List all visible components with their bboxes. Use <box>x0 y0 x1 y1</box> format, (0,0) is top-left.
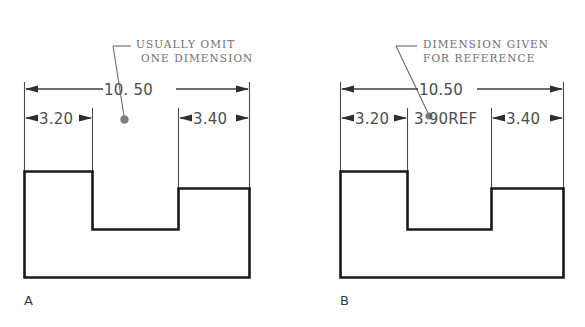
panel-a-part-outline <box>25 172 250 278</box>
panel-a-left-dim-text: 3.20 <box>39 110 73 128</box>
panel-a-overall-dim-text: 10. 50 <box>104 81 153 99</box>
panel-b-note-line-1: DIMENSION GIVEN <box>423 38 549 50</box>
panel-b-middle-dim-text: 3.90REF <box>414 110 477 128</box>
panel-b-left-arrow-right <box>394 115 407 122</box>
drawing-page: USUALLY OMIT ONE DIMENSION 10. 50 <box>0 0 585 327</box>
panel-b-right-arrow-right <box>550 115 563 122</box>
panel-a-figure-label: A <box>24 293 33 308</box>
panel-b-note-line-2: FOR REFERENCE <box>423 52 535 64</box>
panel-b-overall-dimension: 10.50 <box>341 81 563 99</box>
panel-b-overall-dim-text: 10.50 <box>419 81 463 99</box>
panel-a-overall-arrow-right <box>236 86 249 93</box>
panel-b-left-arrow-left <box>341 115 354 122</box>
panel-a-overall-arrow-left <box>25 86 38 93</box>
panel-a-right-dim-text: 3.40 <box>193 110 227 128</box>
panel-a-right-dimension: 3.40 <box>179 110 249 128</box>
panel-a-right-arrow-left <box>179 115 192 122</box>
panel-a-leader-dot <box>120 115 128 123</box>
panel-a-left-dimension: 3.20 <box>25 110 92 128</box>
panel-a-left-arrow-right <box>79 115 92 122</box>
panel-b-middle-dimension: 3.90REF <box>414 110 477 128</box>
panel-a-left-arrow-left <box>25 115 38 122</box>
panel-b: DIMENSION GIVEN FOR REFERENCE 10.50 <box>340 38 564 308</box>
panel-b-right-arrow-left <box>492 115 505 122</box>
panel-a-right-arrow-right <box>236 115 249 122</box>
technical-drawing-canvas: USUALLY OMIT ONE DIMENSION 10. 50 <box>0 0 585 327</box>
panel-b-overall-arrow-right <box>550 86 563 93</box>
panel-a-overall-dimension: 10. 50 <box>25 81 249 99</box>
panel-b-figure-label: B <box>340 293 349 308</box>
panel-a-note-line-1: USUALLY OMIT <box>136 38 235 50</box>
panel-b-left-dimension: 3.20 <box>341 110 407 128</box>
panel-b-overall-arrow-left <box>341 86 354 93</box>
panel-b-right-dimension: 3.40 <box>492 110 563 128</box>
panel-b-part-outline <box>341 172 564 278</box>
panel-b-right-dim-text: 3.40 <box>506 110 540 128</box>
panel-b-left-dim-text: 3.20 <box>355 110 389 128</box>
panel-a-note-line-2: ONE DIMENSION <box>141 52 253 64</box>
panel-a: USUALLY OMIT ONE DIMENSION 10. 50 <box>24 38 253 308</box>
